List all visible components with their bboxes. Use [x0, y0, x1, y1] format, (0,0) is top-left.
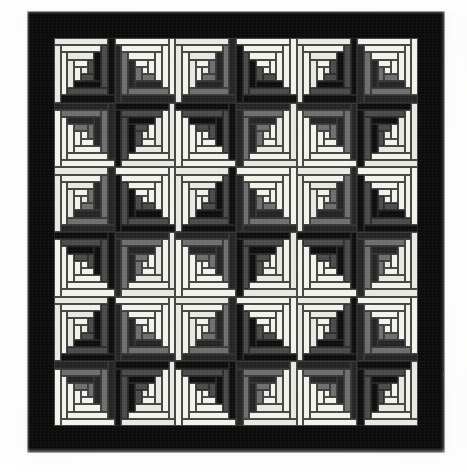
quilt-log-sw-r2-l: [189, 254, 196, 283]
quilt-log-sw-r0-r: [351, 103, 358, 160]
quilt-log-nw-r3-l: [196, 325, 203, 339]
quilt-log-ne-r0-b: [121, 225, 175, 232]
quilt-block-r4-c6: [357, 232, 418, 297]
quilt-log-sw-r1-l: [303, 246, 310, 289]
quilt-log-sw-r1-b: [189, 153, 229, 160]
quilt-log-sw-r1-t: [303, 110, 343, 117]
quilt-log-ne-r2-b: [135, 81, 162, 88]
quilt-log-nw-r0-r: [229, 167, 236, 224]
quilt-log-nw-r1-t: [61, 304, 101, 311]
quilt-log-se-r2-l: [128, 383, 135, 412]
quilt-log-se-r0-t: [357, 232, 411, 239]
quilt-log-nw-r3-t: [196, 60, 209, 67]
quilt-log-nw-r0-b: [182, 95, 236, 102]
quilt-log-sw-r2-b: [74, 404, 101, 411]
quilt-block-center: [202, 390, 209, 397]
quilt-log-nw-r2-r: [337, 311, 344, 340]
quilt-log-sw-r2-l: [67, 383, 74, 412]
quilt-log-sw-r3-l: [317, 261, 324, 275]
quilt-log-nw-r0-t: [54, 38, 108, 45]
quilt-log-ne-r1-b: [371, 88, 411, 95]
quilt-log-ne-r2-b: [135, 210, 162, 217]
quilt-block-r2-c5: [297, 103, 358, 168]
quilt-log-ne-r0-t: [236, 167, 290, 174]
quilt-log-nw-r0-b: [61, 95, 115, 102]
quilt-log-sw-r0-r: [229, 103, 236, 160]
quilt-log-se-r0-l: [357, 369, 364, 426]
quilt-log-ne-r2-l: [371, 318, 378, 347]
quilt-log-se-r2-l: [371, 124, 378, 153]
quilt-block-r4-c3: [175, 232, 236, 297]
quilt-log-ne-r2-t: [371, 52, 398, 59]
quilt-block-center: [142, 196, 149, 203]
quilt-log-sw-r2-t: [67, 376, 94, 383]
quilt-block-r2-c4: [236, 103, 297, 168]
quilt-block-center: [202, 67, 209, 74]
quilt-log-sw-r0-r: [351, 232, 358, 289]
quilt-log-ne-r2-l: [249, 60, 256, 89]
quilt-log-sw-r3-l: [74, 390, 81, 404]
quilt-log-sw-r2-b: [74, 275, 101, 282]
quilt-log-ne-r1-t: [121, 175, 161, 182]
quilt-log-ne-r0-r: [290, 38, 297, 95]
quilt-log-ne-r1-b: [128, 88, 168, 95]
quilt-log-se-r1-r: [162, 239, 169, 282]
quilt-log-se-r1-l: [121, 246, 128, 289]
quilt-log-ne-r0-t: [357, 38, 411, 45]
quilt-log-se-r0-b: [364, 160, 418, 167]
quilt-log-ne-r1-r: [405, 45, 412, 88]
quilt-log-nw-r3-r: [330, 60, 337, 74]
quilt-log-ne-r1-l: [243, 182, 250, 225]
quilt-log-ne-r1-t: [121, 304, 161, 311]
quilt-log-ne-r1-l: [121, 311, 128, 354]
quilt-log-ne-r2-t: [371, 182, 398, 189]
quilt-log-ne-r2-t: [249, 52, 276, 59]
quilt-log-nw-r1-l: [182, 311, 189, 354]
quilt-log-ne-r3-l: [256, 67, 263, 81]
quilt-log-se-r2-t: [371, 246, 398, 253]
quilt-block-r4-c2: [115, 232, 176, 297]
quilt-log-ne-r1-r: [162, 304, 169, 347]
quilt-log-se-r3-r: [148, 124, 155, 138]
quilt-log-se-r1-r: [283, 239, 290, 282]
quilt-log-se-r3-r: [391, 124, 398, 138]
quilt-log-nw-r3-l: [196, 196, 203, 210]
quilt-log-se-r0-r: [169, 232, 176, 289]
quilt-block-r6-c1: [54, 361, 115, 426]
quilt-log-se-r0-t: [236, 361, 290, 368]
quilt-log-nw-r3-b: [324, 333, 337, 340]
quilt-log-sw-r3-t: [317, 124, 330, 131]
quilt-log-ne-r1-r: [162, 175, 169, 218]
quilt-log-nw-r2-b: [196, 340, 223, 347]
quilt-log-nw-r2-l: [310, 189, 317, 218]
quilt-log-nw-r1-b: [67, 218, 107, 225]
quilt-log-ne-r2-b: [256, 210, 283, 217]
quilt-log-sw-r1-b: [310, 153, 350, 160]
quilt-log-sw-r1-l: [182, 246, 189, 289]
quilt-log-se-r0-l: [115, 369, 122, 426]
quilt-log-sw-r0-r: [108, 232, 115, 289]
quilt-block-center: [324, 196, 331, 203]
quilt-log-ne-r3-b: [263, 203, 276, 210]
quilt-log-ne-r1-t: [364, 45, 404, 52]
quilt-log-ne-r3-r: [270, 318, 277, 332]
quilt-log-sw-r0-t: [297, 232, 351, 239]
quilt-log-sw-r0-b: [182, 160, 236, 167]
quilt-log-sw-r3-l: [74, 261, 81, 275]
quilt-log-sw-r2-t: [67, 117, 94, 124]
quilt-log-se-r2-b: [135, 275, 162, 282]
quilt-log-nw-r2-l: [189, 189, 196, 218]
quilt-log-nw-r3-l: [317, 67, 324, 81]
quilt-log-ne-r0-b: [243, 225, 297, 232]
quilt-log-ne-r0-t: [357, 297, 411, 304]
quilt-log-se-r2-t: [249, 117, 276, 124]
quilt-log-sw-r0-b: [303, 289, 357, 296]
scan-speck: [443, 374, 445, 376]
quilt-log-nw-r3-t: [317, 60, 330, 67]
quilt-block-center: [81, 390, 88, 397]
quilt-log-ne-r0-b: [364, 95, 418, 102]
quilt-log-ne-r0-b: [121, 95, 175, 102]
quilt-log-nw-r0-t: [54, 297, 108, 304]
quilt-block-center: [142, 325, 149, 332]
quilt-log-ne-r0-l: [236, 175, 243, 232]
